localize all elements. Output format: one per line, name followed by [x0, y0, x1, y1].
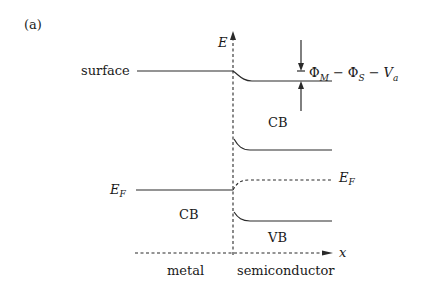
surface-label: surface: [81, 63, 130, 78]
arrow-up-icon: [298, 81, 304, 89]
valence-band-edge: [234, 212, 332, 221]
metal-region-label: metal: [167, 263, 204, 278]
barrier-formula: ΦM−ΦS−Va: [309, 65, 398, 83]
fermi-level-semiconductor: [233, 180, 332, 190]
vb-semiconductor-label: VB: [267, 230, 287, 245]
energy-axis-label: E: [217, 35, 228, 50]
semiconductor-region-label: semiconductor: [237, 263, 335, 278]
panel-label: (a): [24, 17, 42, 32]
surface-level-line: [137, 71, 332, 81]
conduction-band-edge: [234, 139, 332, 150]
cb-metal-label: CB: [179, 207, 199, 222]
fermi-semi-label: EF: [338, 170, 356, 187]
position-axis-arrow-icon: [322, 251, 333, 256]
fermi-metal-label: EF: [109, 182, 127, 199]
position-axis-label: x: [339, 245, 347, 260]
cb-semiconductor-label: CB: [268, 115, 288, 130]
band-diagram: (a) E x surface ΦM−ΦS−Va CB EF EF CB VB …: [0, 0, 431, 292]
arrow-down-icon: [298, 63, 304, 71]
energy-axis-arrow-icon: [230, 31, 236, 40]
